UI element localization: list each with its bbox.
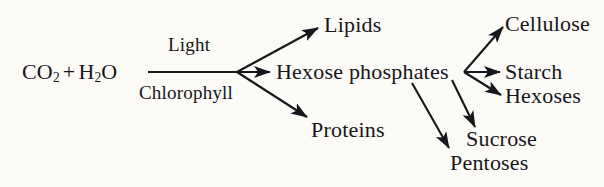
arrow-hexose-phosphates-to-sucrose — [452, 80, 475, 127]
node-cellulose: Cellulose — [505, 13, 590, 35]
arrow-hexose-phosphates-to-pentoses — [412, 83, 449, 148]
arrow-hexose-phosphates-to-cellulose — [464, 27, 503, 72]
condition-chlorophyll: Chlorophyll — [139, 83, 233, 102]
arrow-hexose-phosphates-to-hexoses — [464, 72, 501, 95]
node-starch: Starch — [505, 61, 562, 83]
reactant-water: H2O — [78, 59, 117, 84]
reactant-carbon-dioxide: CO2 — [22, 59, 60, 84]
node-proteins: Proteins — [311, 119, 385, 141]
node-lipids: Lipids — [324, 14, 381, 36]
node-reactants: CO2+H2O — [22, 61, 117, 85]
node-sucrose: Sucrose — [466, 128, 537, 150]
node-hexoses: Hexoses — [505, 85, 581, 107]
condition-light: Light — [168, 35, 210, 54]
plus-operator: + — [60, 59, 79, 84]
node-hexose-phosphates: Hexose phosphates — [276, 61, 449, 83]
node-pentoses: Pentoses — [450, 152, 529, 174]
photosynthesis-pathway-diagram: CO2+H2O Light Chlorophyll Lipids Hexose … — [0, 0, 604, 187]
